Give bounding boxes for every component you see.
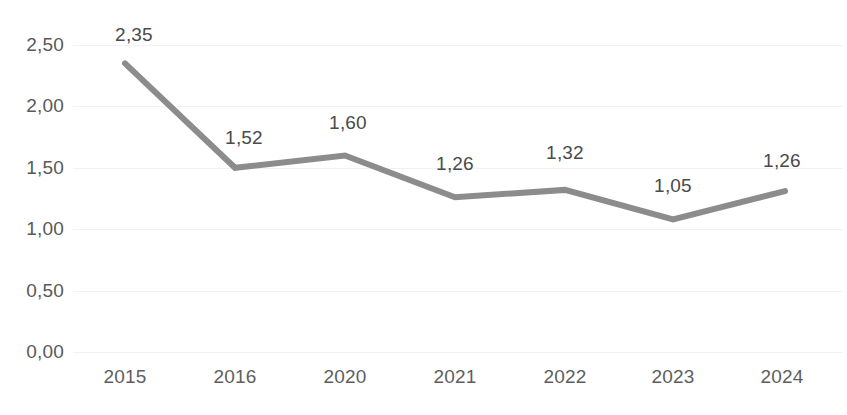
data-label-2016: 1,52	[225, 127, 263, 149]
x-tick-label-2022: 2022	[543, 366, 586, 388]
x-tick-label-2020: 2020	[323, 366, 366, 388]
data-label-2024: 1,26	[763, 150, 801, 172]
series-line-svg	[0, 0, 847, 415]
data-label-2015: 2,35	[115, 24, 153, 46]
plot-area: 2,50 2,00 1,50 1,00 0,50 0,00 2,35 1,52 …	[0, 0, 847, 415]
x-tick-label-2016: 2016	[213, 366, 256, 388]
x-tick-label-2023: 2023	[651, 366, 694, 388]
data-label-2021: 1,26	[436, 153, 474, 175]
x-tick-label-2015: 2015	[103, 366, 146, 388]
data-label-2022: 1,32	[546, 142, 584, 164]
data-label-2020: 1,60	[329, 112, 367, 134]
line-chart: 2,50 2,00 1,50 1,00 0,50 0,00 2,35 1,52 …	[0, 0, 847, 415]
x-tick-label-2021: 2021	[433, 366, 476, 388]
data-label-2023: 1,05	[654, 175, 692, 197]
x-tick-label-2024: 2024	[760, 366, 803, 388]
